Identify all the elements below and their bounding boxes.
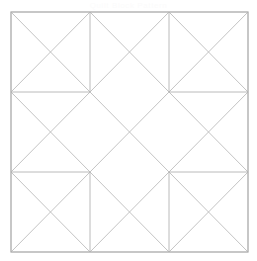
quilt-block-diagram (0, 0, 257, 261)
pattern-stage (0, 0, 257, 261)
page-root: Quilt Block Pattern (0, 0, 257, 261)
